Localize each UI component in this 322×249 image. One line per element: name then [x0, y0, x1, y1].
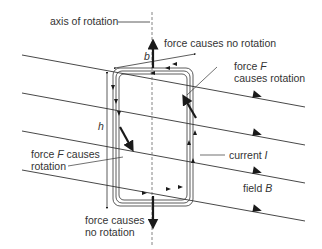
right-force-label: force F causes rotation [234, 60, 305, 84]
current-label: current I [229, 149, 268, 161]
current-var: I [265, 149, 268, 161]
field-text: field [243, 182, 265, 194]
b-label: b [144, 50, 150, 62]
left-force-text-2: rotation [31, 160, 100, 172]
bottom-force-text-1: force causes [85, 214, 145, 226]
bottom-force-label: force causes no rotation [85, 214, 145, 238]
field-label: field B [243, 182, 272, 194]
axis-of-rotation-label: axis of rotation [50, 15, 118, 27]
left-force-label: force F causes rotation [31, 148, 100, 172]
left-force-text-1b: causes [64, 148, 100, 160]
right-force-text-1: force [234, 60, 260, 72]
field-var: B [265, 182, 272, 194]
current-text: current [229, 149, 265, 161]
left-force-text-1: force [31, 148, 57, 160]
h-label: h [98, 120, 104, 132]
right-force-var: F [260, 60, 266, 72]
bottom-force-text-2: no rotation [85, 226, 145, 238]
b-dimension-line [115, 54, 195, 68]
left-side-force-arrow [120, 127, 131, 147]
current-arrow-icons [111, 62, 197, 195]
top-force-label: force causes no rotation [164, 37, 276, 49]
right-force-text-2: causes rotation [234, 72, 305, 84]
